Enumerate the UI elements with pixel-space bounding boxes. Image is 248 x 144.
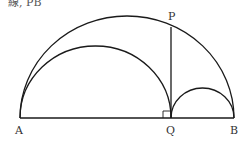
label-b: B (230, 124, 238, 137)
right-angle-mark (163, 111, 171, 118)
small-semicircle-arc (171, 88, 234, 118)
label-q: Q (166, 124, 175, 137)
semicircle-diagram: A Q B P (0, 0, 248, 144)
large-semicircle-arc (20, 16, 234, 118)
label-a: A (14, 124, 24, 137)
label-p: P (168, 10, 176, 23)
left-semicircle-arc (20, 46, 171, 118)
